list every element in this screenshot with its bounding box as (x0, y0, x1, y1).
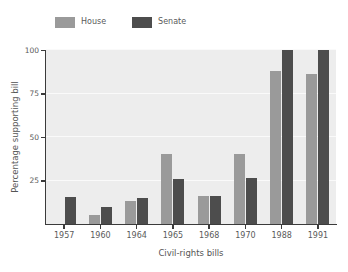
y-axis-tick: 25 (0, 181, 45, 182)
x-axis-tick-label: 1991 (308, 232, 328, 240)
legend-swatch-senate-icon (132, 17, 152, 28)
chart-legend: HouseSenate (55, 14, 186, 30)
x-axis-tick-label: 1965 (163, 232, 183, 240)
y-axis-tick: 100 (0, 50, 45, 51)
x-axis-tick-label: 1960 (90, 232, 110, 240)
bar-senate-1988 (282, 50, 293, 224)
y-axis-tick-mark (41, 50, 45, 51)
y-axis-tick-mark (41, 137, 45, 138)
y-axis-tick-label: 25 (29, 177, 41, 185)
legend-swatch-house-icon (55, 17, 75, 28)
y-axis-tick: 75 (0, 94, 45, 95)
y-axis-tick-label: 50 (29, 134, 41, 142)
y-axis-tick: 50 (0, 137, 45, 138)
legend-label: House (81, 18, 106, 26)
x-axis-tick-mark (100, 225, 101, 229)
x-axis-tick-label: 1988 (271, 232, 291, 240)
bar-senate-1964 (137, 198, 148, 224)
x-axis-line (45, 224, 337, 225)
y-axis-tick-label: 75 (29, 90, 41, 98)
bar-senate-1968 (210, 196, 221, 224)
x-axis-tick-label: 1968 (199, 232, 219, 240)
y-axis-tick-label: 100 (25, 47, 41, 55)
y-axis-tick-mark (41, 93, 45, 94)
bar-house-1960 (89, 215, 100, 224)
x-axis-tick-mark (281, 225, 282, 229)
x-axis-tick-mark (208, 225, 209, 229)
y-axis-line (45, 50, 46, 225)
x-axis-tick-label: 1957 (54, 232, 74, 240)
bar-house-1965 (161, 154, 172, 224)
bar-senate-1957 (65, 197, 76, 224)
x-axis-tick-label: 1970 (235, 232, 255, 240)
bar-house-1988 (270, 71, 281, 224)
plot-area (46, 50, 336, 224)
bar-senate-1960 (101, 207, 112, 224)
legend-item-senate[interactable]: Senate (132, 17, 186, 28)
bar-house-1970 (234, 154, 245, 224)
x-axis-tick-label: 1964 (126, 232, 146, 240)
x-axis-tick-mark (245, 225, 246, 229)
x-axis-tick-mark (136, 225, 137, 229)
x-axis-tick-mark (317, 225, 318, 229)
bar-chart-figure: HouseSenate Percentage supporting bill C… (0, 0, 348, 272)
x-axis-tick-mark (63, 225, 64, 229)
bar-house-1964 (125, 201, 136, 224)
y-axis-tick-mark (41, 180, 45, 181)
bar-senate-1970 (246, 178, 257, 224)
legend-item-house[interactable]: House (55, 17, 106, 28)
x-axis-tick-mark (172, 225, 173, 229)
legend-label: Senate (158, 18, 186, 26)
bar-senate-1991 (318, 50, 329, 224)
bar-house-1991 (306, 74, 317, 225)
x-axis-title: Civil-rights bills (46, 248, 336, 258)
bar-house-1968 (198, 196, 209, 224)
bar-senate-1965 (173, 179, 184, 224)
